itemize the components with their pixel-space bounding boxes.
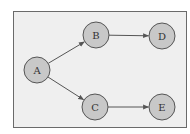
node-label: C	[91, 102, 99, 113]
node-a: A	[24, 57, 50, 83]
node-label: E	[158, 102, 165, 113]
node-c: C	[82, 94, 108, 120]
edge-b-d	[109, 35, 149, 36]
node-label: D	[158, 31, 166, 42]
node-b: B	[83, 22, 109, 48]
node-label: B	[92, 30, 99, 41]
node-e: E	[149, 94, 175, 120]
node-d: D	[149, 23, 175, 49]
node-label: A	[32, 65, 41, 76]
graph-diagram: ABCDE	[0, 0, 190, 134]
